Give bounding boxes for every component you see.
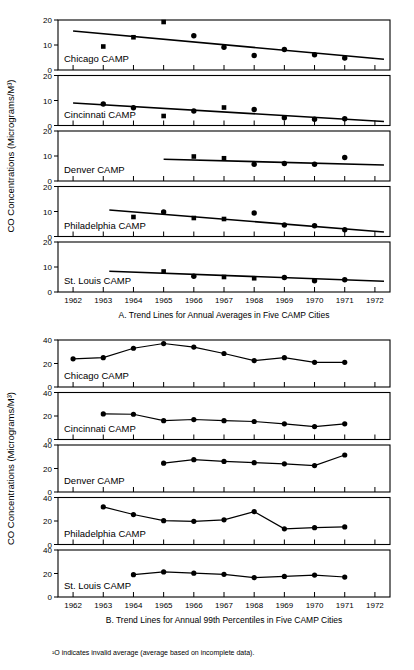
data-point-circle xyxy=(252,419,257,424)
y-tick-label: 20 xyxy=(43,72,52,81)
x-tick-label: 1963 xyxy=(94,601,112,610)
trend-line xyxy=(164,159,384,165)
chart-section: 01020Chicago CAMP01020Cincinnati CAMP010… xyxy=(5,16,390,320)
data-point-circle xyxy=(282,222,287,227)
data-point-circle xyxy=(161,518,166,523)
data-point-circle xyxy=(282,275,287,280)
data-point-circle xyxy=(282,526,287,531)
data-point-circle xyxy=(161,209,166,214)
data-point-circle xyxy=(282,461,287,466)
panel-title: Chicago CAMP xyxy=(64,53,129,64)
y-tick-label: 40 xyxy=(43,546,52,555)
y-tick-label: 20 xyxy=(43,412,52,421)
y-tick-label: 20 xyxy=(43,517,52,526)
data-point-circle xyxy=(251,162,256,167)
data-point-circle xyxy=(70,356,75,361)
panel-cincinnati-camp: 02040Cincinnati CAMP xyxy=(43,389,390,445)
x-tick-label: 1972 xyxy=(366,296,384,305)
data-point-circle xyxy=(191,519,196,524)
data-point-circle xyxy=(101,504,106,509)
co-concentration-figure: 01020Chicago CAMP01020Cincinnati CAMP010… xyxy=(0,0,414,670)
data-point-circle xyxy=(342,421,347,426)
panel-st-louis-camp: 02040St. Louis CAMP xyxy=(43,546,390,602)
chart-section: 02040Chicago CAMP02040Cincinnati CAMP020… xyxy=(5,336,390,625)
series-line xyxy=(73,344,345,363)
data-point-circle xyxy=(101,101,106,106)
data-point-circle xyxy=(312,463,317,468)
panel-title: Denver CAMP xyxy=(64,475,125,486)
data-point-circle xyxy=(342,524,347,529)
x-tick-label: 1965 xyxy=(155,601,173,610)
data-point-circle xyxy=(221,517,226,522)
panel-title: Philadelphia CAMP xyxy=(64,220,146,231)
data-point-circle xyxy=(282,355,287,360)
data-point-circle xyxy=(252,460,257,465)
data-point-circle xyxy=(131,512,136,517)
data-point-circle xyxy=(342,574,347,579)
panel-title: Chicago CAMP xyxy=(64,370,129,381)
x-tick-label: 1967 xyxy=(215,296,233,305)
panel-title: St. Louis CAMP xyxy=(64,275,131,286)
data-point-circle xyxy=(252,509,257,514)
data-point-circle xyxy=(252,575,257,580)
data-point-circle xyxy=(312,52,317,57)
x-tick-label: 1971 xyxy=(336,601,354,610)
y-tick-label: 10 xyxy=(43,152,52,161)
x-tick-label: 1972 xyxy=(366,601,384,610)
x-tick-label: 1968 xyxy=(245,296,263,305)
figure-footnote: ¹O indicates invalid average (average ba… xyxy=(52,649,254,657)
y-tick-label: 0 xyxy=(48,288,53,297)
data-point-circle xyxy=(282,47,287,52)
panel-cincinnati-camp: 01020Cincinnati CAMP xyxy=(43,72,390,131)
y-tick-label: 40 xyxy=(43,494,52,503)
data-point-circle xyxy=(191,344,196,349)
data-point-square xyxy=(131,35,136,40)
data-point-square xyxy=(161,20,166,25)
data-point-circle xyxy=(342,452,347,457)
data-point-circle xyxy=(191,571,196,576)
data-point-circle xyxy=(221,45,226,50)
figure-root: 01020Chicago CAMP01020Cincinnati CAMP010… xyxy=(0,0,414,670)
y-tick-label: 10 xyxy=(43,263,52,272)
panel-chicago-camp: 02040Chicago CAMP xyxy=(43,336,390,392)
data-point-circle xyxy=(101,411,106,416)
data-point-circle xyxy=(312,572,317,577)
x-tick-label: 1962 xyxy=(64,296,82,305)
y-tick-label: 20 xyxy=(43,16,52,25)
data-point-circle xyxy=(342,227,347,232)
data-point-circle xyxy=(312,525,317,530)
panel-philadelphia-camp: 01020Philadelphia CAMP xyxy=(43,183,390,242)
data-point-circle xyxy=(342,116,347,121)
y-tick-label: 20 xyxy=(43,360,52,369)
data-point-circle xyxy=(161,569,166,574)
x-tick-label: 1964 xyxy=(125,296,143,305)
data-point-square xyxy=(192,154,197,159)
data-point-circle xyxy=(131,412,136,417)
data-point-circle xyxy=(221,459,226,464)
data-point-square xyxy=(222,105,227,110)
panel-title: Cincinnati CAMP xyxy=(64,109,136,120)
data-point-circle xyxy=(161,341,166,346)
data-point-circle xyxy=(251,107,256,112)
y-axis-title: CO Concentrations (Micrograms/M³) xyxy=(5,79,16,232)
data-point-circle xyxy=(131,346,136,351)
data-point-circle xyxy=(191,108,196,113)
data-point-circle xyxy=(251,210,256,215)
y-tick-label: 0 xyxy=(48,593,53,602)
data-point-circle xyxy=(312,360,317,365)
panel-title: Denver CAMP xyxy=(64,164,125,175)
data-point-circle xyxy=(191,417,196,422)
panel-title: Philadelphia CAMP xyxy=(64,528,146,539)
x-tick-label: 1966 xyxy=(185,601,203,610)
data-point-circle xyxy=(312,223,317,228)
data-point-circle xyxy=(131,572,136,577)
x-tick-label: 1963 xyxy=(94,296,112,305)
y-tick-label: 10 xyxy=(43,208,52,217)
data-point-circle xyxy=(282,574,287,579)
y-tick-label: 20 xyxy=(43,127,52,136)
x-tick-label: 1965 xyxy=(155,296,173,305)
data-point-circle xyxy=(312,117,317,122)
data-point-circle xyxy=(101,355,106,360)
data-point-circle xyxy=(252,358,257,363)
data-point-circle xyxy=(312,278,317,283)
